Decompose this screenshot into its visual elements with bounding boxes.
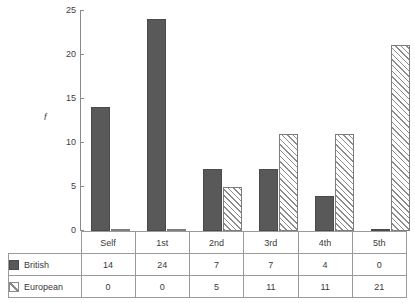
cell-british-4th: 4 xyxy=(298,254,352,276)
legend-label-british: British xyxy=(24,260,49,270)
bar-european-2nd[interactable] xyxy=(223,187,242,231)
table-header-3rd: 3rd xyxy=(244,232,298,254)
table-header-2nd: 2nd xyxy=(190,232,244,254)
y-axis-label: f xyxy=(44,112,47,122)
bar-group-3rd xyxy=(249,10,305,231)
cell-european-5th: 21 xyxy=(352,276,406,298)
bar-group-4th xyxy=(305,10,361,231)
bar-european-5th[interactable] xyxy=(391,45,410,231)
legend-item-british[interactable]: British xyxy=(9,254,82,276)
table-header-1st: 1st xyxy=(135,232,189,254)
cell-european-3rd: 11 xyxy=(244,276,298,298)
bar-group-2nd xyxy=(193,10,249,231)
bar-british-4th[interactable] xyxy=(315,196,334,231)
y-tick-label-15: 15 xyxy=(54,94,76,103)
cell-european-self: 0 xyxy=(81,276,135,298)
table-header-5th: 5th xyxy=(352,232,406,254)
y-tick-label-20: 20 xyxy=(54,50,76,59)
cell-british-self: 14 xyxy=(81,254,135,276)
y-tick-label-25: 25 xyxy=(54,6,76,15)
table-row: European 0 0 5 11 11 21 xyxy=(9,276,407,298)
bar-group-5th xyxy=(361,10,415,231)
bar-british-3rd[interactable] xyxy=(259,169,278,231)
table-row: British 14 24 7 7 4 0 xyxy=(9,254,407,276)
bar-european-3rd[interactable] xyxy=(279,134,298,231)
bar-british-2nd[interactable] xyxy=(203,169,222,231)
cell-british-2nd: 7 xyxy=(190,254,244,276)
bar-group-1st xyxy=(137,10,193,231)
cell-british-5th: 0 xyxy=(352,254,406,276)
data-table-block: Self 1st 2nd 3rd 4th 5th British 14 24 7… xyxy=(8,231,407,298)
cell-british-3rd: 7 xyxy=(244,254,298,276)
y-tick-label-10: 10 xyxy=(54,138,76,147)
bar-european-4th[interactable] xyxy=(335,134,354,231)
table-header-4th: 4th xyxy=(298,232,352,254)
y-tick-label-5: 5 xyxy=(54,182,76,191)
legend-swatch-hatch-icon xyxy=(9,282,19,292)
legend-item-european[interactable]: European xyxy=(9,276,82,298)
bars-layer xyxy=(81,0,415,240)
bar-group-self xyxy=(81,10,137,231)
plot-area: f 25 20 15 10 5 0 xyxy=(0,0,415,240)
cell-european-1st: 0 xyxy=(135,276,189,298)
legend-label-european: European xyxy=(24,282,63,292)
bar-british-1st[interactable] xyxy=(147,19,166,231)
cell-british-1st: 24 xyxy=(135,254,189,276)
legend-swatch-solid-icon xyxy=(9,260,19,270)
bar-british-self[interactable] xyxy=(91,107,110,231)
bar-chart-figure: f 25 20 15 10 5 0 xyxy=(0,0,415,303)
cell-european-2nd: 5 xyxy=(190,276,244,298)
data-table: Self 1st 2nd 3rd 4th 5th British 14 24 7… xyxy=(8,231,407,298)
cell-european-4th: 11 xyxy=(298,276,352,298)
table-header-row: Self 1st 2nd 3rd 4th 5th xyxy=(9,232,407,254)
table-header-self: Self xyxy=(81,232,135,254)
table-header-corner xyxy=(9,232,82,254)
